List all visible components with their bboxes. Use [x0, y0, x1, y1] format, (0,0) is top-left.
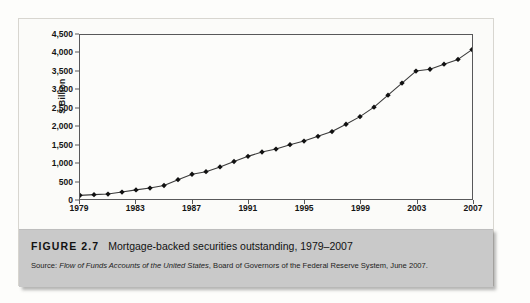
- data-point-marker: [231, 159, 236, 164]
- y-tick-label: 1,000: [39, 158, 73, 168]
- data-point-marker: [329, 129, 334, 134]
- x-tick-mark: [192, 200, 193, 204]
- series-line-chart: [80, 35, 472, 199]
- y-tick-label: 2,500: [39, 103, 73, 113]
- x-tick-mark: [248, 200, 249, 204]
- data-point-marker: [161, 183, 166, 188]
- x-tick-label: 1999: [338, 203, 382, 213]
- y-tick-label: 1,500: [39, 140, 73, 150]
- data-point-marker: [175, 177, 180, 182]
- data-point-marker: [427, 67, 432, 72]
- y-tick-label: 3,000: [39, 84, 73, 94]
- data-point-marker: [301, 138, 306, 143]
- y-tick-label: 3,500: [39, 66, 73, 76]
- x-tick-mark: [79, 200, 80, 204]
- figure-caption-row: FIGURE 2.7Mortgage-backed securities out…: [31, 240, 485, 252]
- data-point-marker: [259, 149, 264, 154]
- data-point-marker: [441, 61, 446, 66]
- chart-panel: $ Billion 05001,0001,5002,0002,5003,0003…: [19, 19, 493, 229]
- figure-title-text: Mortgage-backed securities outstanding, …: [108, 240, 353, 252]
- data-point-marker: [203, 169, 208, 174]
- data-point-marker: [147, 185, 152, 190]
- data-point-marker: [119, 189, 124, 194]
- data-point-marker: [315, 134, 320, 139]
- plot-area: [79, 34, 473, 200]
- y-tick-label: 500: [39, 177, 73, 187]
- figure-caption-block: FIGURE 2.7Mortgage-backed securities out…: [19, 229, 493, 287]
- data-point-marker: [343, 122, 348, 127]
- figure-container: $ Billion 05001,0001,5002,0002,5003,0003…: [18, 18, 494, 286]
- x-tick-label: 1995: [282, 203, 326, 213]
- source-remainder: , Board of Governors of the Federal Rese…: [209, 261, 428, 270]
- figure-number-label: FIGURE 2.7: [31, 240, 99, 252]
- data-point-marker: [245, 154, 250, 159]
- y-tick-label: 4,000: [39, 47, 73, 57]
- data-point-marker: [105, 191, 110, 196]
- x-tick-mark: [473, 200, 474, 204]
- x-tick-label: 1979: [57, 203, 101, 213]
- source-publication-title: Flow of Funds Accounts of the United Sta…: [59, 261, 209, 270]
- data-point-marker: [91, 192, 96, 197]
- x-tick-label: 1983: [113, 203, 157, 213]
- data-point-marker: [133, 187, 138, 192]
- x-tick-label: 1987: [170, 203, 214, 213]
- y-tick-label: 2,000: [39, 121, 73, 131]
- series-line: [80, 50, 472, 196]
- data-point-marker: [287, 142, 292, 147]
- y-tick-label: 4,500: [39, 29, 73, 39]
- x-tick-label: 1991: [226, 203, 270, 213]
- data-point-marker: [217, 164, 222, 169]
- source-prefix: Source:: [31, 261, 59, 270]
- x-tick-mark: [417, 200, 418, 204]
- x-tick-label: 2007: [451, 203, 495, 213]
- x-tick-label: 2003: [395, 203, 439, 213]
- figure-source-note: Source: Flow of Funds Accounts of the Un…: [31, 261, 483, 272]
- x-tick-mark: [304, 200, 305, 204]
- data-point-marker: [189, 172, 194, 177]
- series-markers: [80, 47, 472, 198]
- data-point-marker: [80, 193, 83, 198]
- x-tick-mark: [135, 200, 136, 204]
- data-point-marker: [273, 146, 278, 151]
- x-tick-mark: [360, 200, 361, 204]
